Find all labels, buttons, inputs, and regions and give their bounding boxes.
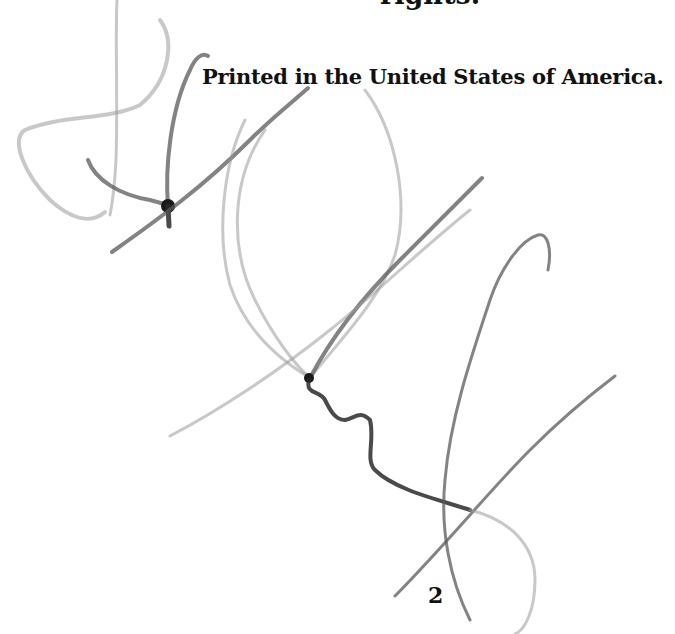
scribble-center-loops	[170, 90, 482, 510]
scribble-left-loop	[19, 0, 308, 252]
page-number: 2	[428, 582, 443, 608]
scribble-overlay	[0, 0, 675, 634]
scribble-right-strokes	[395, 235, 615, 634]
book-copyright-page: rights. Printed in the United States of …	[0, 0, 675, 634]
